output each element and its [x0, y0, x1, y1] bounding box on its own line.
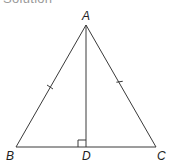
- side-ac: [86, 25, 156, 147]
- side-ab: [16, 25, 86, 147]
- label-d: D: [82, 149, 91, 163]
- label-c: C: [157, 149, 166, 163]
- label-a: A: [81, 9, 90, 23]
- triangle-diagram: A B D C: [0, 0, 172, 168]
- right-angle-mark: [78, 140, 86, 147]
- label-b: B: [6, 149, 14, 163]
